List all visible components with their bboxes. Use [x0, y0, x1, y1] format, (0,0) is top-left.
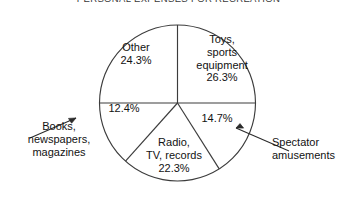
slice-value-books: 12.4%	[100, 102, 148, 115]
slice-label-books-line-2: magazines	[6, 146, 112, 159]
slice-value-toys: 26.3%	[183, 71, 261, 84]
slice-label-books: Books, newspapers, magazines	[6, 120, 112, 158]
slice-label-toys-line-2: equipment	[183, 59, 261, 72]
slice-label-other: Other 24.3%	[100, 41, 172, 67]
slice-label-toys-line-1: sports	[183, 46, 261, 59]
slice-label-spectator: Spectator amusements	[272, 136, 356, 162]
slice-value-spectator: 14.7%	[193, 112, 241, 125]
slice-label-spectator-line-1: amusements	[272, 149, 356, 162]
slice-label-books-line-0: Books,	[6, 120, 112, 133]
slice-value-radio: 22.3%	[126, 162, 222, 175]
pie-chart-figure: PERSONAL EXPENSES FOR RECREATION Other 2…	[0, 0, 357, 202]
slice-label-other-line-0: Other	[100, 41, 172, 54]
slice-label-spectator-line-0: Spectator	[272, 136, 356, 149]
slice-label-radio: Radio, TV, records 22.3%	[126, 136, 222, 174]
slice-label-toys-line-0: Toys,	[183, 33, 261, 46]
slice-label-radio-line-1: TV, records	[126, 149, 222, 162]
slice-label-books-line-1: newspapers,	[6, 133, 112, 146]
slice-label-toys: Toys, sports equipment 26.3%	[183, 33, 261, 84]
slice-label-radio-line-0: Radio,	[126, 136, 222, 149]
slice-value-other: 24.3%	[100, 54, 172, 67]
